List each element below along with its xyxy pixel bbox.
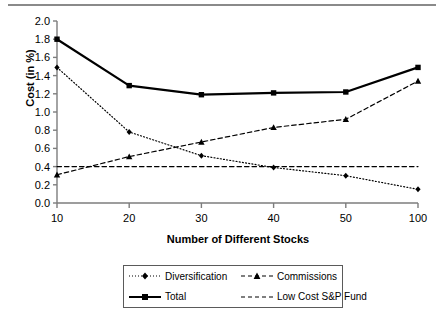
legend-item-total: Total: [124, 291, 236, 303]
y-tick-label: 1.4: [35, 70, 50, 82]
legend-swatch-dashed-icon: [240, 291, 274, 303]
x-tick-label: 20: [123, 212, 135, 224]
data-point: [343, 116, 349, 122]
data-point: [415, 78, 421, 84]
legend-swatch-dotted-diamond-icon: [128, 270, 162, 282]
y-tick-label: 0.8: [35, 124, 50, 136]
data-point: [199, 92, 204, 97]
legend-item-commissions: Commissions: [236, 270, 344, 282]
data-point: [54, 37, 59, 42]
legend-swatch-solid-square-icon: [128, 291, 162, 303]
data-point: [271, 90, 276, 95]
series-layer: [54, 37, 421, 193]
legend-label-total: Total: [165, 291, 186, 302]
chart-figure: 0.00.20.40.60.81.01.21.41.61.82.01020304…: [0, 0, 444, 320]
y-tick-label: 1.6: [35, 51, 50, 63]
legend-item-diversification: Diversification: [124, 270, 236, 282]
y-tick-label: 0.2: [35, 179, 50, 191]
data-point: [127, 83, 132, 88]
x-axis-title: Number of Different Stocks: [57, 233, 419, 245]
data-point: [343, 173, 348, 179]
data-point: [343, 89, 348, 94]
y-tick-label: 1.0: [35, 106, 50, 118]
y-tick-label: 0.4: [35, 161, 50, 173]
legend-swatch-dashed-triangle-icon: [240, 270, 274, 282]
data-point: [270, 124, 276, 130]
series-total: [54, 37, 420, 98]
data-point: [415, 186, 420, 192]
series-diversification: [54, 64, 420, 192]
y-axis-title: Cost (in %): [24, 18, 36, 138]
x-tick-label: 40: [267, 212, 279, 224]
legend-label-diversification: Diversification: [165, 271, 227, 282]
chart-legend: Diversification Commissions Total: [123, 265, 343, 308]
y-tick-label: 1.2: [35, 88, 50, 100]
x-tick-label: 100: [409, 212, 427, 224]
data-point: [271, 165, 276, 171]
data-point: [415, 65, 420, 70]
data-point: [199, 153, 204, 159]
y-tick-label: 1.8: [35, 33, 50, 45]
x-tick-label: 30: [195, 212, 207, 224]
legend-item-low-cost-sp-fund: Low Cost S&P Fund: [236, 291, 344, 303]
x-tick-label: 50: [340, 212, 352, 224]
legend-label-low-cost-sp-fund: Low Cost S&P Fund: [277, 291, 367, 302]
axis-layer: 0.00.20.40.60.81.01.21.41.61.82.01020304…: [35, 15, 427, 224]
y-tick-label: 0.0: [35, 197, 50, 209]
y-tick-label: 0.6: [35, 142, 50, 154]
legend-label-commissions: Commissions: [277, 271, 337, 282]
x-tick-label: 10: [51, 212, 63, 224]
header-divider: [8, 4, 436, 6]
y-tick-label: 2.0: [35, 15, 50, 27]
